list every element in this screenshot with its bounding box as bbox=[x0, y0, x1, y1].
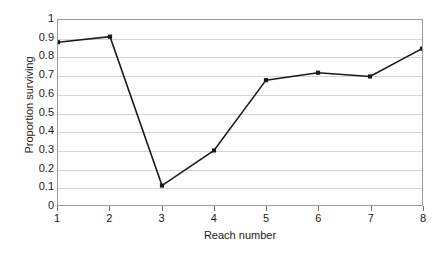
x-axis-title: Reach number bbox=[57, 229, 423, 242]
x-axis-tick-marks bbox=[57, 206, 423, 211]
y-axis-tick-label: 0.3 bbox=[30, 144, 54, 155]
chart-container: Proportion surviving 00.10.20.30.40.50.6… bbox=[0, 0, 435, 253]
y-axis-tick-label: 0.8 bbox=[30, 50, 54, 61]
y-axis-tick-label: 0.2 bbox=[30, 163, 54, 174]
y-axis-tick-label: 1 bbox=[30, 13, 54, 24]
x-axis-tick-label: 6 bbox=[303, 212, 333, 225]
x-axis-tick-label: 1 bbox=[42, 212, 72, 225]
y-axis-tick-label: 0.1 bbox=[30, 181, 54, 192]
y-axis-tick-label: 0.6 bbox=[30, 88, 54, 99]
x-axis-tick-label: 3 bbox=[147, 212, 177, 225]
y-axis-tick-label: 0.7 bbox=[30, 69, 54, 80]
data-point-marker bbox=[316, 71, 320, 75]
y-axis-tick-label: 0.9 bbox=[30, 32, 54, 43]
x-axis-tick-mark bbox=[371, 206, 372, 211]
series-polyline bbox=[58, 37, 422, 186]
x-axis-tick-mark bbox=[214, 206, 215, 211]
data-point-marker bbox=[420, 47, 422, 51]
x-axis-tick-mark bbox=[423, 206, 424, 211]
x-axis-tick-label: 4 bbox=[199, 212, 229, 225]
data-point-marker bbox=[160, 184, 164, 188]
x-axis-tick-mark bbox=[57, 206, 58, 211]
x-axis-tick-label: 2 bbox=[94, 212, 124, 225]
data-point-marker bbox=[264, 78, 268, 82]
x-axis-tick-mark bbox=[318, 206, 319, 211]
data-point-marker bbox=[58, 40, 60, 44]
y-axis-tick-label: 0.5 bbox=[30, 107, 54, 118]
x-axis-tick-mark bbox=[109, 206, 110, 211]
x-axis-tick-mark bbox=[162, 206, 163, 211]
y-axis-tick-label: 0.4 bbox=[30, 125, 54, 136]
series-markers bbox=[58, 35, 422, 188]
x-axis-tick-mark bbox=[266, 206, 267, 211]
data-point-marker bbox=[368, 74, 372, 78]
plot-area bbox=[57, 19, 423, 206]
y-axis-tick-label: 0 bbox=[30, 200, 54, 211]
x-axis-tick-label: 5 bbox=[251, 212, 281, 225]
data-series-line bbox=[58, 20, 422, 205]
data-point-marker bbox=[212, 148, 216, 152]
x-axis-tick-label: 8 bbox=[408, 212, 435, 225]
data-point-marker bbox=[108, 35, 112, 39]
x-axis-tick-labels: 12345678 bbox=[57, 212, 423, 226]
x-axis-tick-label: 7 bbox=[356, 212, 386, 225]
